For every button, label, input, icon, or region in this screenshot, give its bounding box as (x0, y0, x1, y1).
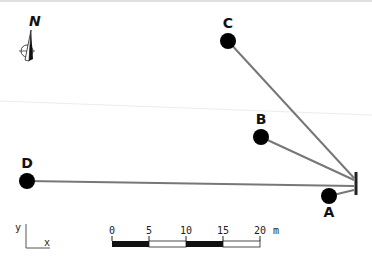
node-d (19, 173, 35, 189)
scale-tick-5: 5 (146, 225, 152, 236)
node-label-b: B (256, 111, 267, 127)
axis-x-label: x (44, 237, 50, 248)
faint-diagonal (0, 101, 372, 115)
axes-indicator: y x (15, 222, 50, 248)
node-label-d: D (21, 155, 33, 171)
north-label: N (29, 13, 41, 29)
scale-unit: m (273, 225, 279, 236)
axis-y-label: y (15, 222, 21, 233)
ray-path-d (27, 181, 354, 186)
north-arrow-icon: N (19, 13, 41, 61)
node-a (321, 188, 337, 204)
scale-tick-15: 15 (217, 225, 229, 236)
ray-path-c (228, 41, 354, 178)
scale-tick-20: 20 (254, 225, 266, 236)
node-c (220, 33, 236, 49)
ray-paths (27, 41, 354, 196)
node-label-a: A (324, 204, 335, 220)
scale-tick-10: 10 (180, 225, 192, 236)
source-nodes: CBDA (19, 15, 337, 220)
ray-path-b (261, 137, 354, 180)
scale-tick-0: 0 (109, 225, 115, 236)
node-label-c: C (223, 15, 233, 31)
diagram-canvas: N CBDA y x 0 5 10 15 20 m (0, 0, 372, 263)
scale-bar: 0 5 10 15 20 m (109, 225, 279, 247)
node-b (253, 129, 269, 145)
